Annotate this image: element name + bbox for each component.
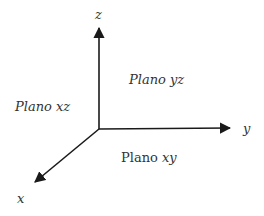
plane-yz-word: Plano — [129, 72, 166, 87]
x-axis-arrow — [35, 129, 99, 182]
plane-xz-label: Plano xz — [15, 100, 70, 114]
y-axis-arrow — [99, 128, 230, 129]
plane-xy-vars: xy — [162, 150, 177, 165]
plane-xz-vars: xz — [56, 99, 70, 114]
x-axis-label: x — [17, 192, 24, 206]
plane-xy-word: Plano — [121, 150, 158, 165]
plane-xy-label: Plano xy — [121, 151, 177, 165]
plane-xz-word: Plano — [15, 99, 52, 114]
y-axis-label: y — [243, 122, 250, 136]
plane-yz-vars: yz — [170, 72, 184, 87]
plane-yz-label: Plano yz — [129, 73, 184, 87]
z-axis-label: z — [95, 8, 102, 22]
